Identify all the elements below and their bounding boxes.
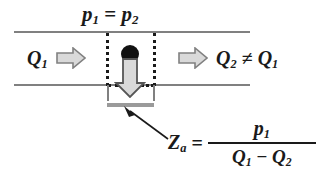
denominator-q2-subscript: 2	[286, 156, 292, 169]
pressure-equality-label: p1 = p2	[82, 4, 139, 26]
denominator-q2-symbol: Q	[272, 146, 286, 167]
impedance-symbol-group: Za	[168, 132, 186, 154]
pressure-p2-symbol: p	[121, 2, 132, 26]
control-volume-boundary-left	[106, 33, 109, 86]
impedance-denominator: Q1 − Q2	[224, 144, 300, 168]
flow-q1-subscript: 1	[41, 57, 47, 71]
branch-wall-right	[153, 85, 155, 101]
impedance-z-subscript: a	[180, 141, 186, 155]
branch-wall-left	[107, 85, 109, 101]
impedance-fraction: p1 Q1 − Q2	[208, 118, 316, 168]
right-block-arrow-icon-outflow	[178, 47, 208, 69]
impedance-numerator: p1	[246, 118, 278, 142]
impedance-equation: Za = p1 Q1 − Q2	[168, 118, 316, 168]
numerator-p-subscript: 1	[264, 127, 270, 141]
flow-q1-ref-subscript: 1	[272, 57, 278, 71]
control-volume-boundary-right	[153, 33, 156, 86]
right-block-arrow-icon	[56, 47, 86, 69]
down-block-arrow-icon	[114, 58, 146, 98]
impedance-z-symbol: Z	[168, 131, 180, 153]
inflow-label: Q1	[27, 48, 48, 70]
pressure-p2-subscript: 2	[132, 12, 139, 27]
pipe-wall-top	[14, 31, 250, 33]
pressure-p1-symbol: p	[82, 2, 93, 26]
denominator-q1-subscript: 1	[246, 156, 252, 169]
equals-sign: =	[104, 2, 116, 26]
numerator-p-symbol: p	[254, 117, 264, 139]
flow-q2-subscript: 2	[230, 57, 236, 71]
denominator-minus-sign: −	[256, 146, 267, 167]
denominator-q1-symbol: Q	[232, 146, 246, 167]
flow-q1-symbol: Q	[27, 47, 41, 69]
outflow-label: Q2 ≠ Q1	[216, 48, 278, 70]
impedance-pipe-diagram: p1 = p2 Q1 Q2 ≠ Q1 Za = p1 Q1 − Q2	[0, 0, 329, 176]
pressure-p1-subscript: 1	[93, 12, 100, 27]
impedance-equals-sign: =	[191, 133, 202, 153]
flow-q1-ref-symbol: Q	[258, 47, 272, 69]
flow-q2-symbol: Q	[216, 47, 230, 69]
not-equal-sign: ≠	[242, 47, 253, 69]
leader-arrow-icon	[118, 104, 172, 142]
